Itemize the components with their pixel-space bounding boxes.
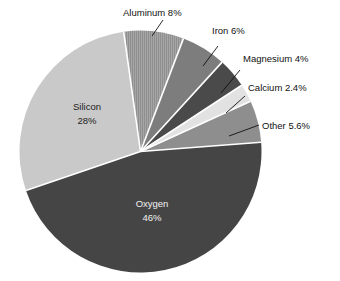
callout-label-magnesium: Magnesium 4%	[243, 53, 309, 64]
callout-label-iron: Iron 6%	[212, 25, 245, 36]
inside-label-silicon-value: 28%	[77, 115, 97, 126]
inside-label-oxygen-value: 46%	[142, 212, 162, 223]
pie-chart-svg: Aluminum 8% Iron 6% Magnesium 4% Calcium…	[0, 0, 340, 281]
pie-chart-figure: Aluminum 8% Iron 6% Magnesium 4% Calcium…	[0, 0, 340, 281]
inside-label-silicon-name: Silicon	[73, 101, 101, 112]
inside-label-oxygen-name: Oxygen	[136, 198, 169, 209]
callout-label-aluminum: Aluminum 8%	[123, 7, 182, 18]
callout-label-other: Other 5.6%	[262, 120, 311, 131]
callout-label-calcium: Calcium 2.4%	[248, 82, 307, 93]
